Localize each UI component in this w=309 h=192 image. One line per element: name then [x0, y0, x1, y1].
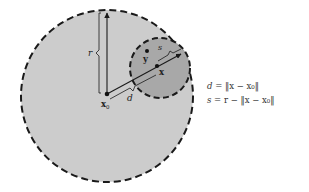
s-label: s [158, 43, 162, 52]
r-label: r [88, 48, 93, 58]
point-x0 [105, 92, 110, 97]
y-label: y [142, 54, 149, 64]
eq-s-rhs: = r − ‖x − x₀‖ [214, 95, 274, 105]
d-label: d [127, 93, 133, 103]
equation-s: s = r − ‖x − x₀‖ [207, 95, 275, 105]
eq-d-rhs: = ‖x − x₀‖ [215, 81, 259, 91]
eq-s-lhs: s [207, 95, 211, 105]
point-y [145, 49, 149, 53]
eq-d-lhs: d [207, 81, 212, 91]
equation-d: d = ‖x − x₀‖ [207, 81, 259, 91]
